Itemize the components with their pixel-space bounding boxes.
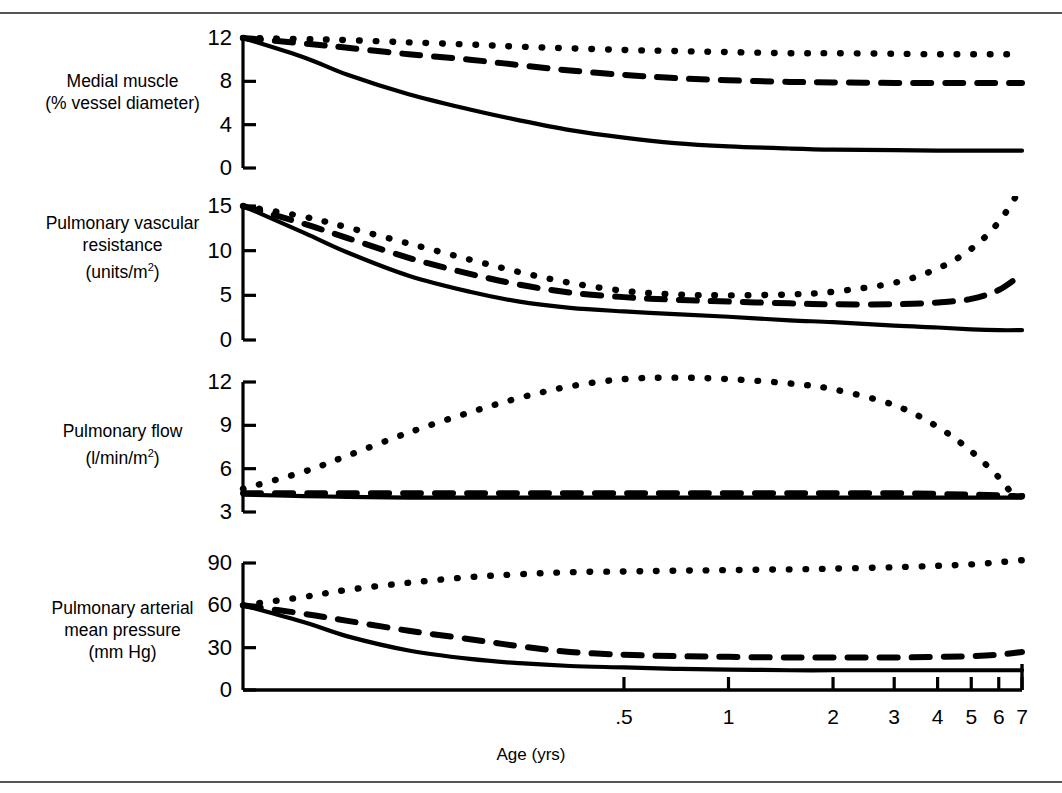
x-tick-label-6: 6 bbox=[993, 705, 1005, 729]
panel-pulmonary-vascular-resistance: Pulmonary vascular resistance (units/m2)… bbox=[0, 196, 1062, 351]
panel-4-plot bbox=[0, 552, 1062, 717]
x-axis-title: Age (yrs) bbox=[0, 745, 1062, 765]
panel-medial-muscle: Medial muscle (% vessel diameter) 12 8 4… bbox=[0, 28, 1062, 178]
x-tick-label-2: 2 bbox=[827, 705, 839, 729]
x-tick-label-5: 5 bbox=[965, 705, 977, 729]
x-tick-label-7: 7 bbox=[1016, 705, 1028, 729]
x-tick-label-1: 1 bbox=[723, 705, 735, 729]
panel-pulmonary-flow: Pulmonary flow (l/min/m2) 12 9 6 3 bbox=[0, 372, 1062, 527]
x-tick-label-p5: .5 bbox=[615, 705, 633, 729]
panel-3-plot bbox=[0, 372, 1062, 532]
panel-2-plot bbox=[0, 196, 1062, 361]
x-tick-label-4: 4 bbox=[932, 705, 944, 729]
x-axis-tick-labels: .51234567 bbox=[0, 705, 1062, 735]
x-tick-label-3: 3 bbox=[888, 705, 900, 729]
figure-root: Medial muscle (% vessel diameter) 12 8 4… bbox=[0, 0, 1062, 793]
figure-top-rule bbox=[0, 12, 1062, 14]
panel-pulmonary-arterial-mean-pressure: Pulmonary arterial mean pressure (mm Hg)… bbox=[0, 552, 1062, 707]
panel-1-plot bbox=[0, 28, 1062, 188]
figure-bottom-rule bbox=[0, 781, 1062, 783]
